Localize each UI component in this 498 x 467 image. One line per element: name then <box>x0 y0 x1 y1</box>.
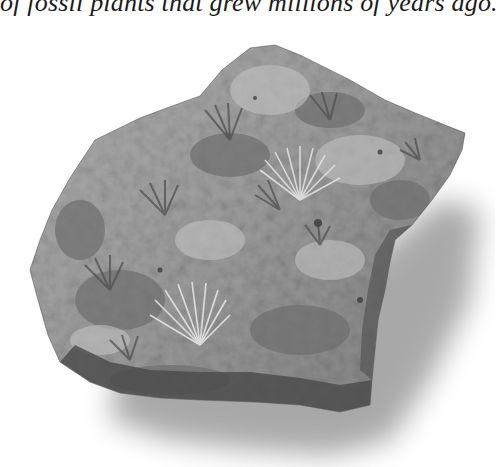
fossil-rock-figure <box>0 0 495 467</box>
fossil-rock-illustration <box>0 0 495 467</box>
